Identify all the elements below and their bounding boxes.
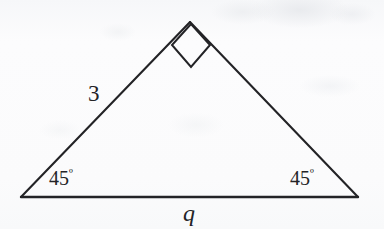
angle-label-left: 45º [49, 167, 73, 188]
triangle-figure [0, 0, 384, 229]
triangle-right-leg [190, 22, 358, 197]
right-angle-marker-icon [172, 24, 210, 67]
triangle-left-leg [21, 22, 190, 197]
side-length-label-3: 3 [88, 82, 100, 105]
angle-right-value: 45 [290, 167, 310, 189]
base-length-label-q: q [183, 201, 195, 225]
degree-symbol-icon: º [310, 166, 314, 180]
angle-label-right: 45º [290, 167, 314, 188]
figure-canvas: 3 45º 45º q [0, 0, 384, 229]
angle-left-value: 45 [49, 167, 69, 189]
degree-symbol-icon: º [69, 166, 73, 180]
